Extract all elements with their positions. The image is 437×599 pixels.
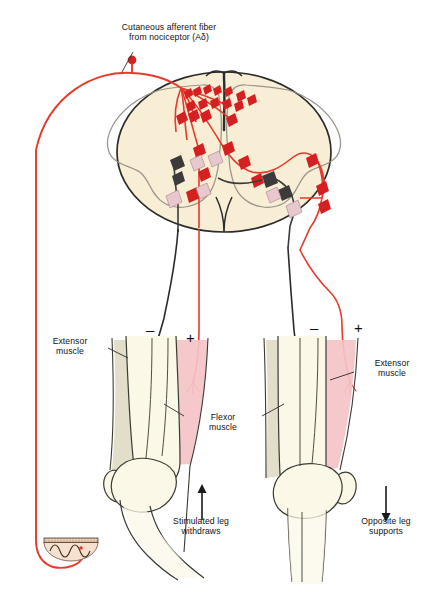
left-calf-edge bbox=[184, 466, 190, 552]
opposite-leg bbox=[264, 336, 359, 584]
sign-minus-right-flexor: – bbox=[310, 320, 318, 335]
sign-minus-left-extensor: – bbox=[146, 322, 154, 337]
flexor-muscle-label: Flexor muscle bbox=[187, 412, 259, 433]
stimulated-arrow-head bbox=[198, 484, 207, 493]
nociceptor-terminal bbox=[79, 546, 83, 550]
afferent-fiber-label: Cutaneous afferent fiber from nociceptor… bbox=[84, 22, 254, 43]
stimulated-leg bbox=[100, 336, 208, 580]
right-lower-leg-shade bbox=[288, 506, 326, 584]
diagram-svg bbox=[0, 0, 437, 599]
reflex-diagram: Cutaneous afferent fiber from nociceptor… bbox=[0, 0, 437, 599]
extensor-muscle-label-left: Extensor muscle bbox=[34, 336, 106, 357]
skin-patch bbox=[44, 538, 98, 561]
sign-plus-right-extensor: + bbox=[354, 320, 363, 335]
sign-plus-left-flexor: + bbox=[186, 330, 195, 345]
epidermis-band bbox=[44, 538, 98, 543]
opposite-leg-label: Opposite leg supports bbox=[346, 516, 426, 537]
right-thigh-outline-lateral bbox=[264, 338, 266, 478]
stimulated-leg-label: Stimulated leg withdraws bbox=[158, 516, 244, 537]
extensor-muscle-label-right: Extensor muscle bbox=[356, 358, 428, 379]
left-thigh-outline-lateral bbox=[110, 338, 113, 470]
